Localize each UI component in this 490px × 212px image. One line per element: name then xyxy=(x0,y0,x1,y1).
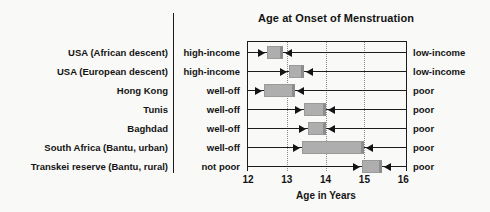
chart-row: Hong Kong well-off poor xyxy=(0,81,490,100)
chart-row: Tunis well-off poor xyxy=(0,100,490,119)
onset-range-box xyxy=(362,160,381,173)
right-arrowhead-icon xyxy=(366,144,373,152)
right-arrowhead-icon xyxy=(328,125,335,133)
status-left-label: high-income xyxy=(176,43,240,62)
chart-row: South Africa (Bantu, urban) well-off poo… xyxy=(0,138,490,157)
status-left-label: well-off xyxy=(176,100,240,119)
country-label: Hong Kong xyxy=(0,81,168,100)
x-axis-title: Age in Years xyxy=(276,190,376,201)
status-right-label: poor xyxy=(413,81,483,100)
left-arrowhead-icon xyxy=(295,106,302,114)
country-label: Transkei reserve (Bantu, rural) xyxy=(0,157,168,176)
left-arrowhead-icon xyxy=(280,68,287,76)
onset-range-box xyxy=(267,46,283,59)
left-arrowhead-icon xyxy=(299,125,306,133)
x-tick-12: 12 xyxy=(237,174,259,185)
range-line xyxy=(247,71,406,72)
country-label: Tunis xyxy=(0,100,168,119)
status-right-label: poor xyxy=(413,119,483,138)
right-arrowhead-icon xyxy=(384,163,391,171)
chart-row: Baghdad well-off poor xyxy=(0,119,490,138)
x-tick-14: 14 xyxy=(315,174,337,185)
x-tick-13: 13 xyxy=(276,174,298,185)
right-arrowhead-icon xyxy=(285,49,292,57)
range-line xyxy=(247,166,406,167)
onset-range-box xyxy=(302,141,364,154)
country-label: USA (European descent) xyxy=(0,62,168,81)
plot-frame-top xyxy=(247,41,407,42)
left-arrowhead-icon xyxy=(293,144,300,152)
status-right-label: low-income xyxy=(413,43,483,62)
onset-range-box xyxy=(289,65,305,78)
status-right-label: poor xyxy=(413,157,483,176)
chart-title: Age at Onset of Menstruation xyxy=(243,12,429,24)
country-label: Baghdad xyxy=(0,119,168,138)
status-left-label: well-off xyxy=(176,81,240,100)
range-line xyxy=(247,128,406,129)
x-tick-16: 16 xyxy=(392,174,414,185)
onset-range-box xyxy=(308,122,325,135)
right-arrowhead-icon xyxy=(328,106,335,114)
country-label: South Africa (Bantu, urban) xyxy=(0,138,168,157)
status-right-label: poor xyxy=(413,100,483,119)
x-tick-15: 15 xyxy=(353,174,375,185)
left-arrowhead-icon xyxy=(258,49,265,57)
onset-range-box xyxy=(264,84,295,97)
right-arrowhead-icon xyxy=(297,87,304,95)
status-right-label: low-income xyxy=(413,62,483,81)
right-arrowhead-icon xyxy=(306,68,313,76)
chart-row: USA (African descent) high-income low-in… xyxy=(0,43,490,62)
status-left-label: well-off xyxy=(176,119,240,138)
left-arrowhead-icon xyxy=(353,163,360,171)
status-left-label: high-income xyxy=(176,62,240,81)
range-line xyxy=(247,109,406,110)
menarche-range-chart: Age at Onset of Menstruation USA (Africa… xyxy=(0,0,490,212)
onset-range-box xyxy=(304,103,325,116)
status-right-label: poor xyxy=(413,138,483,157)
status-left-label: not poor xyxy=(176,157,240,176)
chart-row: USA (European descent) high-income low-i… xyxy=(0,62,490,81)
country-label: USA (African descent) xyxy=(0,43,168,62)
left-arrowhead-icon xyxy=(255,87,262,95)
status-left-label: well-off xyxy=(176,138,240,157)
